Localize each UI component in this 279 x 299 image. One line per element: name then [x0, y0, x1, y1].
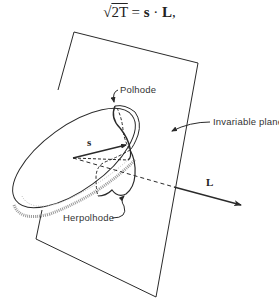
vector-L-label: L: [206, 176, 213, 188]
invariable-plane-label: Invariable plane: [213, 116, 279, 127]
diagram-canvas: [0, 0, 279, 299]
leader-invariable-plane: [172, 122, 210, 131]
leader-polhode: [114, 90, 119, 102]
vector-s-label: s: [87, 136, 91, 148]
polhode-label: Polhode: [120, 84, 156, 95]
herpolhode-label: Herpolhode: [63, 212, 114, 223]
